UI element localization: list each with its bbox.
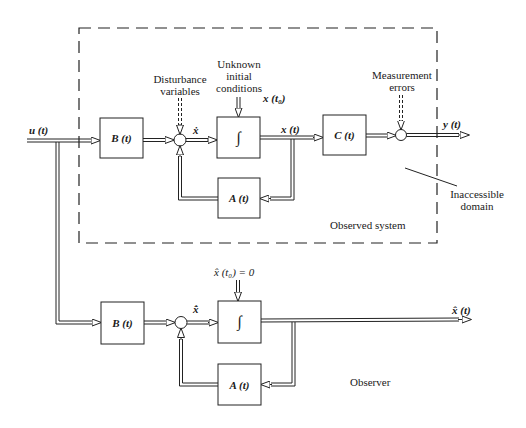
integrator-system-label: ∫ bbox=[217, 117, 260, 158]
summing-junction-measurement bbox=[396, 130, 407, 141]
block-B-system-label: B (t) bbox=[100, 118, 143, 158]
unknown-ic-line1: Unknown bbox=[211, 58, 267, 70]
block-B-observer-label: B (t) bbox=[101, 302, 144, 344]
state-label: x (t) bbox=[281, 123, 300, 135]
inaccessible-line1: Inaccessible bbox=[444, 188, 510, 200]
measurement-line2: errors bbox=[364, 81, 440, 93]
block-A-system-label: A (t) bbox=[218, 178, 260, 218]
inaccessible-domain-label: Inaccessible domain bbox=[444, 188, 510, 212]
summing-junction-observer bbox=[175, 317, 187, 329]
disturbance-line1: Disturbance bbox=[145, 73, 215, 85]
observer-label: Observer bbox=[350, 376, 390, 388]
integrator-observer-label: ∫ bbox=[218, 301, 261, 343]
input-label-u: u (t) bbox=[29, 124, 48, 136]
observed-system-label: Observed system bbox=[330, 219, 405, 231]
output-label-y: y (t) bbox=[443, 118, 461, 130]
observer-initial-condition-label: x̂ (t₀) = 0 bbox=[214, 266, 254, 278]
disturbance-label: Disturbance variables bbox=[145, 73, 215, 97]
unknown-initial-conditions-label: Unknown initial conditions bbox=[211, 58, 267, 94]
unknown-ic-line3: conditions bbox=[211, 82, 267, 94]
unknown-ic-line2: initial bbox=[211, 70, 267, 82]
block-A-observer-label: A (t) bbox=[218, 364, 261, 405]
input-signal-u bbox=[27, 139, 101, 324]
disturbance-line2: variables bbox=[145, 85, 215, 97]
block-C-system-label: C (t) bbox=[323, 115, 366, 155]
measurement-line1: Measurement bbox=[364, 69, 440, 81]
xdot-label: ẋ bbox=[193, 124, 199, 136]
xhatdot-label: x̂̇ bbox=[193, 303, 199, 315]
x0-label: x (t₀) bbox=[263, 92, 285, 104]
inaccessible-line2: domain bbox=[444, 200, 510, 212]
observer-output-label: x̂ (t) bbox=[452, 304, 471, 316]
summing-junction-system bbox=[174, 134, 186, 146]
measurement-errors-label: Measurement errors bbox=[364, 69, 440, 93]
